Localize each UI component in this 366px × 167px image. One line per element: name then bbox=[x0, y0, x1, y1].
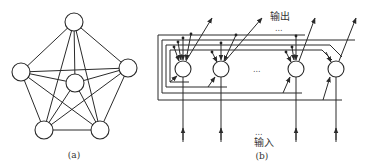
neuron-2 bbox=[213, 61, 229, 77]
output-ellipsis: ... bbox=[275, 24, 283, 33]
input-label: 输入 bbox=[254, 136, 274, 148]
input-ellipsis: ... bbox=[255, 128, 263, 137]
synaptic-inputs bbox=[173, 33, 331, 62]
diagram-canvas: (a) bbox=[0, 0, 366, 167]
neuron-bottom-right bbox=[91, 121, 109, 139]
neuron-bottom-left bbox=[35, 121, 53, 139]
middle-ellipsis: ... bbox=[253, 65, 261, 74]
neuron-4 bbox=[328, 61, 344, 77]
output-label: 输出 bbox=[270, 10, 290, 22]
neuron-3 bbox=[288, 61, 304, 77]
caption-a: (a) bbox=[68, 150, 80, 160]
neuron-left bbox=[12, 63, 30, 81]
caption-b: (b) bbox=[256, 151, 269, 161]
fully-connected-network: (a) bbox=[12, 13, 137, 160]
neuron-right bbox=[119, 59, 137, 77]
neuron-top bbox=[65, 13, 83, 31]
neuron-1 bbox=[175, 61, 191, 77]
feedback-network: 输出 ... ... ... 输入 (b) bbox=[158, 10, 356, 161]
neuron-center bbox=[66, 74, 84, 92]
